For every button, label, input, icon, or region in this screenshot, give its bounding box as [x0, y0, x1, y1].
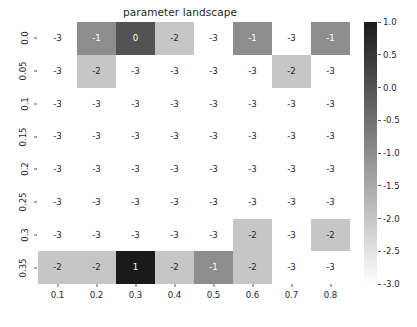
heatmap-cell: -2: [38, 251, 77, 284]
heatmap-cell: -3: [233, 153, 272, 186]
heatmap-cell-label: -3: [53, 132, 62, 141]
heatmap-cell: -3: [194, 186, 233, 219]
heatmap-cell-label: -3: [53, 231, 62, 240]
y-tick-mark: [34, 136, 37, 137]
heatmap-cell: -1: [194, 251, 233, 284]
heatmap-cell-label: -3: [287, 198, 296, 207]
heatmap-cell-label: -3: [92, 100, 101, 109]
heatmap-cell-label: -3: [92, 132, 101, 141]
colorbar-tick-label: 0.0: [383, 83, 397, 93]
heatmap-axes: -3-10-2-3-1-3-1-3-2-3-3-3-3-2-3-3-3-3-3-…: [38, 22, 350, 284]
colorbar-tick-mark: [378, 22, 381, 23]
x-tick: 0.2: [77, 284, 116, 304]
x-tick: 0.7: [272, 284, 311, 304]
heatmap-cell-label: -3: [326, 263, 335, 272]
heatmap-cell-label: -3: [131, 165, 140, 174]
heatmap-cell-label: -1: [209, 263, 218, 272]
heatmap-cell-label: -3: [209, 132, 218, 141]
heatmap-cell: -3: [77, 153, 116, 186]
heatmap-cell: -3: [77, 120, 116, 153]
heatmap-cell-label: -2: [53, 263, 62, 272]
heatmap-cell-label: 0: [133, 34, 138, 43]
heatmap-cell: -2: [77, 251, 116, 284]
heatmap-cell-label: -2: [287, 67, 296, 76]
heatmap-cell-label: -3: [170, 132, 179, 141]
heatmap-cell: -3: [116, 153, 155, 186]
heatmap-cell: -3: [38, 88, 77, 121]
heatmap-cell: -2: [233, 251, 272, 284]
heatmap-cell-label: -1: [248, 34, 257, 43]
x-tick-label: 0.2: [90, 290, 104, 300]
heatmap-cell-label: -2: [170, 34, 179, 43]
heatmap-cell: -3: [233, 120, 272, 153]
heatmap-cell-label: -3: [53, 67, 62, 76]
y-tick-label: 0.1: [20, 97, 30, 111]
x-tick: 0.1: [38, 284, 77, 304]
y-tick-label: 0.35: [17, 258, 27, 277]
colorbar-tick-label: -0.5: [383, 115, 400, 125]
heatmap-cell: -3: [272, 186, 311, 219]
y-tick-mark: [34, 103, 37, 104]
heatmap-cell: -3: [116, 120, 155, 153]
colorbar-tick-label: -2.0: [383, 214, 400, 224]
y-tick-mark: [34, 202, 37, 203]
heatmap-cell-label: -3: [170, 198, 179, 207]
colorbar-tick-label: -1.5: [383, 181, 400, 191]
chart-title: parameter landscape: [0, 6, 360, 18]
heatmap-cell-label: -3: [209, 165, 218, 174]
x-tick-mark: [57, 284, 58, 287]
x-tick-label: 0.4: [168, 290, 182, 300]
heatmap-cell-label: -3: [287, 263, 296, 272]
colorbar-tick-mark: [378, 87, 381, 88]
x-tick-mark: [330, 284, 331, 287]
heatmap-cell: -2: [311, 219, 350, 252]
x-tick-mark: [96, 284, 97, 287]
heatmap-cell-label: -3: [53, 165, 62, 174]
heatmap-cell: -2: [233, 219, 272, 252]
heatmap-cell-label: -3: [92, 198, 101, 207]
x-tick: 0.5: [194, 284, 233, 304]
heatmap-cell-label: -3: [248, 198, 257, 207]
heatmap-cell: 0: [116, 22, 155, 55]
y-tick-label: 0.2: [20, 163, 30, 177]
colorbar-tick-label: -3.0: [383, 279, 400, 289]
y-tick-label: 0.0: [20, 32, 30, 46]
heatmap-cell: -3: [38, 153, 77, 186]
heatmap-cell: -3: [155, 186, 194, 219]
y-tick-mark: [34, 234, 37, 235]
x-tick: 0.8: [311, 284, 350, 304]
x-tick-label: 0.1: [51, 290, 65, 300]
heatmap-cell: -3: [272, 22, 311, 55]
y-tick-mark: [34, 267, 37, 268]
heatmap-cell: -3: [311, 88, 350, 121]
heatmap-cell: -3: [155, 219, 194, 252]
heatmap-cell-label: -3: [131, 100, 140, 109]
heatmap-cell: -3: [272, 120, 311, 153]
colorbar-tick-mark: [378, 284, 381, 285]
heatmap-cell-label: -3: [170, 100, 179, 109]
heatmap-cell-label: -3: [209, 231, 218, 240]
colorbar-tick-mark: [378, 185, 381, 186]
heatmap-cell-label: -2: [248, 231, 257, 240]
colorbar-tick-mark: [378, 251, 381, 252]
heatmap-cell: -3: [194, 219, 233, 252]
heatmap-cell-label: -3: [326, 132, 335, 141]
y-tick-label: 0.25: [17, 193, 27, 212]
heatmap-cell-label: -2: [92, 263, 101, 272]
heatmap-cell: -2: [155, 251, 194, 284]
x-tick-mark: [252, 284, 253, 287]
heatmap-cell-label: -3: [287, 132, 296, 141]
heatmap-cell: -3: [233, 55, 272, 88]
heatmap-cell-label: -3: [170, 231, 179, 240]
heatmap-cell: -3: [155, 120, 194, 153]
heatmap-cell-label: -3: [170, 67, 179, 76]
x-tick-label: 0.7: [285, 290, 299, 300]
heatmap-cell: -3: [272, 251, 311, 284]
heatmap-cell-label: -3: [131, 132, 140, 141]
heatmap-cell-label: -3: [53, 100, 62, 109]
heatmap-cell: -3: [155, 153, 194, 186]
colorbar: 1.00.50.0-0.5-1.0-1.5-2.0-2.5-3.0: [364, 22, 377, 284]
heatmap-cell: -2: [77, 55, 116, 88]
y-tick-label: 0.05: [17, 62, 27, 81]
colorbar-tick-mark: [378, 54, 381, 55]
